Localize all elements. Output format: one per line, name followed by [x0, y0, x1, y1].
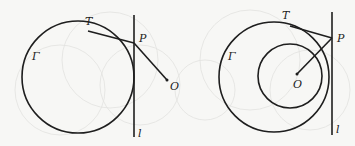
label-gamma: Γ [227, 50, 236, 63]
label-P: P [138, 32, 147, 45]
label-T: T [85, 15, 94, 28]
geometry-diagram: T P O Γ l T P O Γ l [0, 0, 355, 146]
point-O [296, 73, 299, 76]
label-l: l [138, 127, 142, 140]
label-l: l [336, 123, 340, 136]
label-T: T [282, 9, 291, 22]
label-P: P [336, 32, 345, 45]
inner-circle [258, 44, 322, 108]
segment-PO [134, 43, 167, 80]
tangent-segment-TP [88, 31, 134, 43]
label-O: O [293, 78, 302, 91]
right-figure: T P O Γ l [219, 9, 345, 136]
circle-gamma [219, 22, 329, 132]
label-O: O [170, 80, 179, 93]
segment-PO [297, 38, 332, 74]
point-O [166, 79, 169, 82]
label-gamma: Γ [31, 50, 40, 63]
